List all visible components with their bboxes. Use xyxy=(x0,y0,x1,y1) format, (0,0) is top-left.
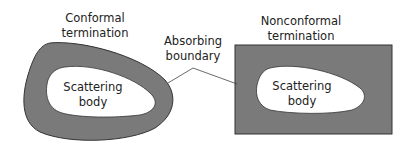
right-body-line2: body xyxy=(272,94,331,109)
leader-line-left xyxy=(168,68,193,83)
absorbing-line2: boundary xyxy=(164,49,222,64)
absorbing-line1: Absorbing xyxy=(164,34,222,49)
conformal-title: Conformal termination xyxy=(62,11,129,41)
nonconformal-title-line2: termination xyxy=(261,29,342,44)
absorbing-boundary-label: Absorbing boundary xyxy=(164,34,222,64)
left-body-line1: Scattering xyxy=(63,80,122,95)
nonconformal-title-line1: Nonconformal xyxy=(261,14,342,29)
right-body-line1: Scattering xyxy=(272,79,331,94)
left-body-label: Scattering body xyxy=(63,80,122,110)
conformal-title-line2: termination xyxy=(62,26,129,41)
leader-line-right xyxy=(193,68,237,84)
conformal-title-line1: Conformal xyxy=(62,11,129,26)
right-body-label: Scattering body xyxy=(272,79,331,109)
diagram-canvas: Conformal termination Scattering body Ab… xyxy=(0,0,405,148)
left-body-line2: body xyxy=(63,95,122,110)
nonconformal-title: Nonconformal termination xyxy=(261,14,342,44)
